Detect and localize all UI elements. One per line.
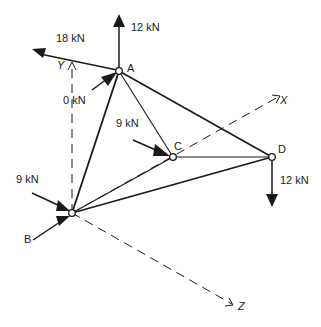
x-axis-arrow-icon xyxy=(272,95,280,103)
node-c-label: C xyxy=(174,140,182,152)
node-d-label: D xyxy=(278,143,286,155)
force-c-incoming-label: 9 kN xyxy=(116,117,139,129)
node-c xyxy=(170,154,177,161)
force-b-reaction xyxy=(33,222,60,240)
arrow-into-b-bottom-icon xyxy=(56,216,70,226)
y-axis-arrow-icon xyxy=(68,62,76,70)
node-b xyxy=(69,210,76,217)
arrow-into-b-top-icon xyxy=(56,200,70,211)
z-axis-label: Z xyxy=(237,300,246,312)
force-a-diagonal-label: 18 kN xyxy=(56,32,85,44)
node-a-label: A xyxy=(127,62,135,74)
space-truss-diagram: Y X Z 12 kN 18 kN 0 kN 9 kN xyxy=(0,0,321,327)
node-a xyxy=(116,68,123,75)
member-ab xyxy=(72,71,119,213)
force-b-incoming xyxy=(32,193,60,206)
member-ac xyxy=(119,71,173,157)
force-a-diagonal xyxy=(40,54,117,70)
force-a-vertical-label: 12 kN xyxy=(131,21,160,33)
members xyxy=(72,71,272,213)
node-b-label: B xyxy=(24,233,31,245)
z-axis xyxy=(72,213,232,304)
loads: 12 kN 18 kN 0 kN 9 kN 12 kN 9 kN xyxy=(16,14,309,240)
force-b-incoming-label: 9 kN xyxy=(16,173,39,185)
arrow-down-icon xyxy=(266,194,278,207)
arrow-up-icon xyxy=(113,14,125,27)
force-d-vertical-label: 12 kN xyxy=(280,174,309,186)
y-axis-label: Y xyxy=(57,59,65,71)
arrow-up-left-icon xyxy=(32,48,46,58)
arrow-into-c-icon xyxy=(153,144,170,156)
x-axis-label: X xyxy=(279,94,288,106)
member-bd xyxy=(72,157,272,213)
node-d xyxy=(269,154,276,161)
force-a-incoming-label: 0 kN xyxy=(63,94,86,106)
